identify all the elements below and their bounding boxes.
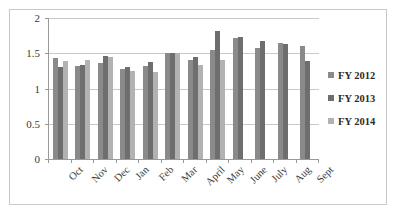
x-tick-label-oct: Oct — [66, 164, 85, 183]
bar-group-nov — [72, 18, 95, 159]
x-tick-label-jan: Jan — [134, 164, 152, 182]
bar-group-april — [184, 18, 207, 159]
legend-swatch-icon — [328, 95, 334, 101]
bar — [130, 71, 135, 159]
y-tick-label: 0.5 — [26, 118, 40, 130]
bar-group-jan — [117, 18, 140, 159]
y-tick-label: 1.5 — [26, 47, 40, 59]
x-tick-label-nov: Nov — [90, 164, 111, 185]
x-tick-label-june: June — [248, 164, 269, 185]
chart-plot-wrapper: 00.511.52 OctNovDecJanFebMarAprilMayJune… — [10, 10, 386, 204]
x-tick-label-sept: Sept — [315, 164, 336, 185]
bar-group-mar — [162, 18, 185, 159]
legend-item-fy-2012[interactable]: FY 2012 — [328, 69, 386, 81]
legend-item-fy-2014[interactable]: FY 2014 — [328, 115, 386, 127]
bar-group-june — [229, 18, 252, 159]
x-tick-label-dec: Dec — [112, 164, 132, 184]
bar — [85, 60, 90, 159]
y-tick-label: 1 — [35, 83, 41, 95]
x-tick-label-mar: Mar — [180, 164, 200, 184]
bar — [198, 65, 203, 159]
bar — [283, 44, 288, 159]
legend-label: FY 2012 — [338, 70, 375, 81]
chart-legend: FY 2012FY 2013FY 2014 — [328, 69, 386, 138]
x-tick-label-april: April — [203, 164, 226, 187]
y-axis: 00.511.52 — [10, 18, 44, 159]
y-tick-label: 0 — [35, 153, 41, 165]
bar — [175, 53, 180, 159]
legend-swatch-icon — [328, 72, 334, 78]
bar-group-oct — [49, 18, 72, 159]
bar-group-sept — [297, 18, 320, 159]
bars-layer — [49, 18, 319, 159]
bar-group-july — [252, 18, 275, 159]
bar — [260, 41, 265, 159]
bar — [153, 72, 158, 159]
x-tick-label-feb: Feb — [157, 164, 176, 183]
y-tick-label: 2 — [35, 12, 41, 24]
chart-frame: 00.511.52 OctNovDecJanFebMarAprilMayJune… — [9, 9, 387, 205]
bar — [305, 61, 310, 159]
legend-item-fy-2013[interactable]: FY 2013 — [328, 92, 386, 104]
bar-group-may — [207, 18, 230, 159]
x-tickmark — [318, 159, 319, 163]
bar — [238, 37, 243, 159]
x-tick-label-aug: Aug — [292, 164, 313, 185]
bar-group-feb — [139, 18, 162, 159]
bar-group-dec — [94, 18, 117, 159]
x-tick-label-july: July — [270, 164, 290, 184]
bar — [63, 61, 68, 159]
bar — [220, 60, 225, 159]
legend-swatch-icon — [328, 118, 334, 124]
x-axis: OctNovDecJanFebMarAprilMayJuneJulyAugSep… — [48, 162, 318, 204]
plot-area — [48, 18, 319, 160]
legend-label: FY 2013 — [338, 93, 375, 104]
bar — [108, 57, 113, 159]
bar-group-aug — [274, 18, 297, 159]
x-tick-label-may: May — [225, 164, 246, 185]
legend-label: FY 2014 — [338, 116, 375, 127]
